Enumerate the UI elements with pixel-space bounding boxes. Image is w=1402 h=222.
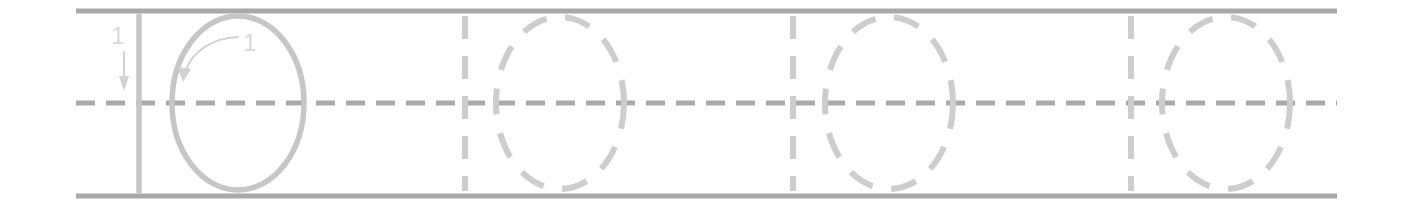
handwriting-practice-row: 1 1 xyxy=(0,0,1402,222)
stroke-order-number-one: 1 xyxy=(112,23,125,49)
character-group-trace-3 xyxy=(1131,16,1290,191)
stroke-direction-arrow-counterclockwise xyxy=(177,37,238,82)
stroke-order-number-zero: 1 xyxy=(244,30,257,56)
ruled-guide-lines xyxy=(76,11,1337,196)
stroke-direction-arrow-down xyxy=(119,52,129,91)
